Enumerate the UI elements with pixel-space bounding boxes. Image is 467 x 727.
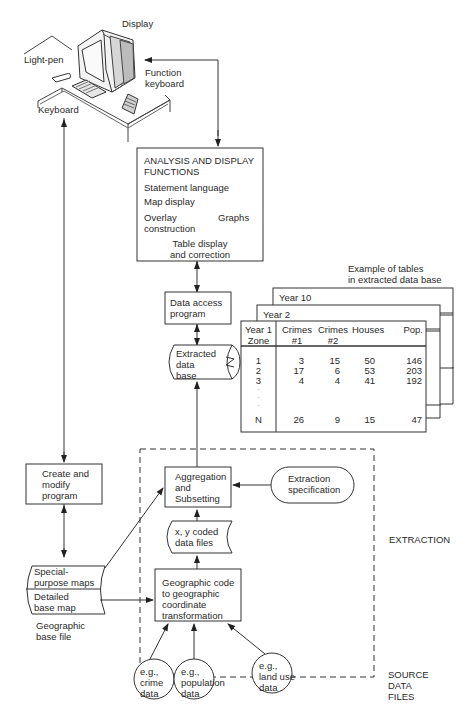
geo-transform-line-2: to geographic <box>162 588 220 599</box>
extraction-spec-line-1: Extraction <box>288 473 330 484</box>
base-file-special-1: Special- <box>34 566 68 577</box>
analysis-item-overlay-1: Overlay <box>144 212 177 223</box>
geo-transform-line-4: transformation <box>162 610 223 621</box>
source-crime-line-1: e.g., <box>140 666 159 677</box>
header-crimes1: Crimes <box>280 324 314 335</box>
source-landuse-line-2: land use <box>259 671 295 682</box>
data-access-line-1: Data access <box>170 297 222 308</box>
aggregation-line-2: and <box>175 482 191 493</box>
tables-caption-2: in extracted data base <box>348 274 441 285</box>
header-crimes2-num: #2 <box>316 335 350 346</box>
cell-houses: 15 <box>352 414 375 425</box>
cell-pop: 192 <box>392 375 422 386</box>
lightpen-label: Light-pen <box>24 54 64 65</box>
extracted-db-line-3: base <box>176 370 197 381</box>
extracted-db-line-1: Extracted <box>176 348 216 359</box>
create-modify-line-2: modify <box>42 479 70 490</box>
analysis-item-graphs: Graphs <box>218 212 249 223</box>
base-file-caption-2: base file <box>36 631 71 642</box>
cell-houses: 41 <box>352 375 375 386</box>
header-pop: Pop. <box>395 324 423 335</box>
source-crime-line-2: crime <box>140 677 163 688</box>
analysis-item-overlay-2: construction <box>144 223 195 234</box>
aggregation-line-1: Aggregation <box>175 471 226 482</box>
extraction-label: EXTRACTION <box>389 534 450 545</box>
xy-files-line-2: data files <box>175 537 213 548</box>
source-landuse-line-1: e.g., <box>259 660 278 671</box>
ellipsis-dots: ··· <box>241 386 276 410</box>
header-houses: Houses <box>352 324 384 335</box>
base-file-detailed-1: Detailed <box>34 591 69 602</box>
data-access-line-2: program <box>170 308 205 319</box>
geo-transform-line-1: Geographic code <box>162 577 234 588</box>
cell-crimes1: 26 <box>280 414 304 425</box>
header-crimes1-num: #1 <box>280 335 314 346</box>
cell-pop: 47 <box>392 414 422 425</box>
cell-crimes2: 4 <box>318 375 340 386</box>
analysis-item-table-2: and correction <box>160 249 240 260</box>
source-landuse-line-3: data <box>259 682 278 693</box>
source-crime-line-3: data <box>140 688 159 699</box>
header-crimes2: Crimes <box>316 324 350 335</box>
keyboard-label: Keyboard <box>38 104 79 115</box>
extraction-spec-line-2: specification <box>288 484 340 495</box>
aggregation-line-3: Subsetting <box>175 493 220 504</box>
analysis-title-2: FUNCTIONS <box>144 166 199 177</box>
analysis-item-map: Map display <box>144 196 195 207</box>
source-population-line-2: population <box>181 677 225 688</box>
source-label-3: FILES <box>388 691 414 702</box>
header-year1: Year 1 <box>241 324 276 335</box>
base-file-caption-1: Geographic <box>36 620 85 631</box>
display-label: Display <box>122 18 153 29</box>
tables-caption-1: Example of tables <box>348 263 424 274</box>
analysis-title-1: ANALYSIS AND DISPLAY <box>144 155 254 166</box>
source-label-1: SOURCE <box>388 669 429 680</box>
cell-crimes2: 9 <box>318 414 340 425</box>
cell-crimes1: 4 <box>280 375 304 386</box>
create-modify-line-1: Create and <box>42 468 89 479</box>
year2-label: Year 2 <box>263 309 290 320</box>
base-file-detailed-2: base map <box>34 602 76 613</box>
analysis-item-table-1: Table display <box>160 238 240 249</box>
cell-zone: N <box>241 414 276 425</box>
year10-label: Year 10 <box>279 292 311 303</box>
source-label-2: DATA <box>388 680 412 691</box>
create-modify-line-3: program <box>42 490 77 501</box>
header-zone: Zone <box>241 335 276 346</box>
analysis-item-statement: Statement language <box>144 182 229 193</box>
geo-transform-line-3: coordinate <box>162 599 206 610</box>
base-file-special-2: purpose maps <box>34 577 94 588</box>
xy-files-line-1: x, y coded <box>175 526 218 537</box>
function-keyboard-label-2: keyboard <box>145 78 184 89</box>
source-population-line-3: data <box>181 688 200 699</box>
function-keyboard-label-1: Function <box>145 67 181 78</box>
source-population-line-1: e.g., <box>181 666 200 677</box>
extracted-db-line-2: data <box>176 359 195 370</box>
